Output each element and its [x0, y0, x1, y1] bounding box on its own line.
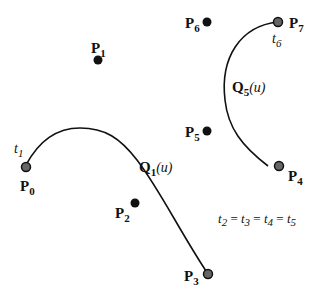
label-t6: t6	[272, 31, 282, 49]
label-p4: P4	[288, 168, 303, 187]
label-p6: P6	[185, 15, 200, 34]
label-t1: t1	[14, 141, 23, 159]
label-q1: Q1(u)	[139, 159, 173, 178]
label-p2: P2	[115, 205, 130, 224]
label-p7: P7	[289, 15, 304, 34]
point-p7	[274, 18, 283, 27]
label-p0: P0	[20, 178, 35, 197]
label-knot-equality: t2 = t3 = t4 = t5	[218, 211, 297, 228]
label-p5: P5	[185, 124, 200, 143]
point-p5	[203, 127, 212, 136]
point-p2	[131, 199, 140, 208]
point-p3	[204, 270, 213, 279]
label-p3: P3	[184, 268, 199, 287]
diagram-canvas: P1 P0 P2 P3 P4 P5 P6 P7 Q1(u) Q5(u) t1 t…	[0, 0, 320, 299]
point-p6	[203, 18, 212, 27]
spline-diagram: P1 P0 P2 P3 P4 P5 P6 P7 Q1(u) Q5(u) t1 t…	[0, 0, 320, 299]
point-p0	[22, 163, 31, 172]
curve-q1	[26, 128, 208, 274]
label-q5: Q5(u)	[232, 79, 266, 98]
point-p4	[275, 162, 284, 171]
